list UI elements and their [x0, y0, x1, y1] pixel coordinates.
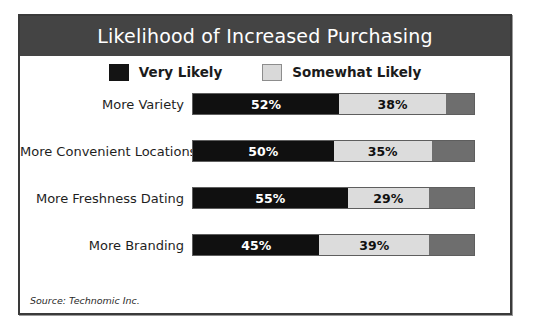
- chart-title-bar: Likelihood of Increased Purchasing: [20, 16, 510, 56]
- category-label: More Convenient Locations: [20, 144, 192, 159]
- chart-plot-area: More Variety 52% 38% More Convenient Loc…: [20, 90, 510, 280]
- bar-segment-very-likely: 52%: [193, 94, 339, 114]
- chart-legend: Very Likely Somewhat Likely: [20, 56, 510, 88]
- source-note: Source: Technomic Inc.: [30, 295, 140, 306]
- chart-row: More Variety 52% 38%: [20, 92, 510, 116]
- legend-swatch-icon-very-likely: [109, 64, 129, 81]
- chart-frame: Likelihood of Increased Purchasing Very …: [18, 14, 512, 315]
- bar-segment-remainder: [446, 94, 474, 114]
- legend-item-somewhat-likely: Somewhat Likely: [262, 64, 421, 81]
- chart-row: More Convenient Locations 50% 35%: [20, 139, 510, 163]
- bar-segment-somewhat-likely: 38%: [339, 94, 446, 114]
- bar-segment-remainder: [432, 141, 474, 161]
- bar-segment-remainder: [429, 188, 474, 208]
- stacked-bar: 45% 39%: [192, 234, 475, 256]
- bar-segment-very-likely: 50%: [193, 141, 334, 161]
- stacked-bar: 55% 29%: [192, 187, 475, 209]
- category-label: More Variety: [20, 97, 192, 112]
- legend-swatch-icon-somewhat-likely: [262, 64, 282, 81]
- legend-item-very-likely: Very Likely: [109, 64, 222, 81]
- category-label: More Freshness Dating: [20, 191, 192, 206]
- category-label: More Branding: [20, 238, 192, 253]
- stacked-bar: 52% 38%: [192, 93, 475, 115]
- bar-segment-somewhat-likely: 35%: [334, 141, 432, 161]
- bar-segment-somewhat-likely: 39%: [319, 235, 429, 255]
- bar-segment-very-likely: 55%: [193, 188, 348, 208]
- bar-segment-remainder: [429, 235, 474, 255]
- page-title: Likelihood of Increased Purchasing: [97, 25, 432, 47]
- legend-label-very-likely: Very Likely: [139, 64, 222, 80]
- bar-segment-very-likely: 45%: [193, 235, 319, 255]
- chart-row: More Freshness Dating 55% 29%: [20, 186, 510, 210]
- legend-label-somewhat-likely: Somewhat Likely: [292, 64, 421, 80]
- chart-row: More Branding 45% 39%: [20, 233, 510, 257]
- stacked-bar: 50% 35%: [192, 140, 475, 162]
- bar-segment-somewhat-likely: 29%: [348, 188, 429, 208]
